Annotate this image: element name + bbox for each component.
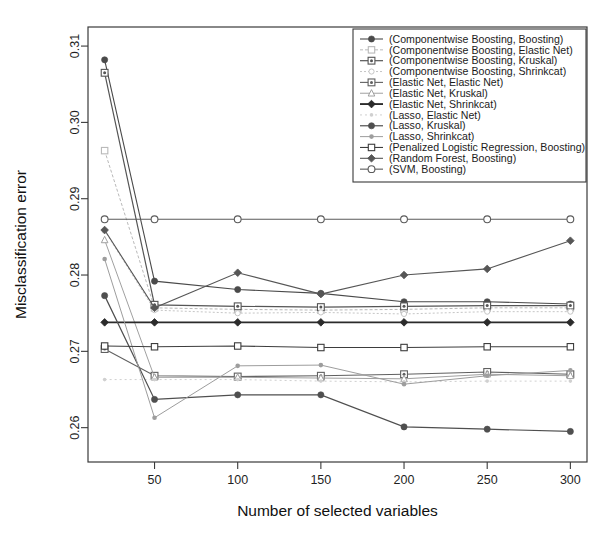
legend-item-label: (SVM, Boosting) bbox=[389, 163, 466, 175]
data-point-marker bbox=[101, 226, 109, 234]
data-point-marker bbox=[484, 344, 490, 350]
data-point-marker bbox=[567, 216, 574, 223]
data-point-marker bbox=[103, 71, 106, 74]
data-point-marker bbox=[567, 237, 575, 245]
data-point-marker bbox=[401, 311, 406, 316]
data-point-marker bbox=[485, 373, 490, 378]
y-tick-label: 0.31 bbox=[68, 34, 82, 58]
data-point-marker bbox=[236, 305, 239, 308]
x-tick-label: 150 bbox=[310, 473, 331, 487]
data-point-marker bbox=[102, 293, 108, 299]
data-point-marker bbox=[486, 304, 489, 307]
data-point-marker bbox=[319, 306, 322, 309]
data-point-marker bbox=[102, 57, 108, 63]
data-point-marker bbox=[369, 69, 374, 74]
x-tick-label: 50 bbox=[148, 473, 162, 487]
data-point-marker bbox=[400, 319, 408, 327]
data-point-marker bbox=[102, 257, 107, 262]
data-point-marker bbox=[103, 378, 107, 382]
data-point-marker bbox=[483, 265, 491, 273]
data-point-marker bbox=[484, 426, 490, 432]
data-point-marker bbox=[234, 216, 241, 223]
data-point-marker bbox=[234, 269, 242, 277]
series-10 bbox=[101, 343, 573, 351]
series-polyline bbox=[105, 346, 571, 348]
y-tick-label: 0.26 bbox=[68, 415, 82, 439]
data-point-marker bbox=[568, 368, 573, 373]
data-point-marker bbox=[235, 392, 241, 398]
data-point-marker bbox=[234, 319, 242, 327]
data-point-marker bbox=[235, 286, 241, 292]
data-point-marker bbox=[569, 379, 573, 383]
series-polyline bbox=[105, 240, 571, 379]
data-point-marker bbox=[101, 319, 109, 327]
data-point-marker bbox=[401, 216, 408, 223]
y-tick-label: 0.27 bbox=[68, 339, 82, 363]
y-tick-label: 0.30 bbox=[68, 110, 82, 134]
data-point-marker bbox=[483, 319, 491, 327]
data-point-marker bbox=[319, 379, 323, 383]
series-9 bbox=[102, 257, 572, 420]
data-point-marker bbox=[151, 396, 157, 402]
legend-layer: (Componentwise Boosting, Boosting)(Compo… bbox=[353, 29, 586, 182]
data-point-marker bbox=[368, 47, 374, 53]
data-point-marker bbox=[318, 344, 324, 350]
data-point-marker bbox=[484, 216, 491, 223]
data-point-marker bbox=[368, 144, 374, 150]
data-point-marker bbox=[368, 36, 374, 42]
data-point-marker bbox=[317, 216, 324, 223]
data-point-marker bbox=[151, 278, 157, 284]
data-point-marker bbox=[370, 59, 373, 62]
data-point-marker bbox=[318, 392, 324, 398]
data-point-marker bbox=[153, 378, 157, 382]
data-point-marker bbox=[370, 113, 374, 117]
data-point-marker bbox=[567, 344, 573, 350]
x-axis-title: Number of selected variables bbox=[237, 502, 438, 519]
series-12 bbox=[101, 216, 574, 223]
misclassification-error-chart: 0.260.270.280.290.300.315010015020025030… bbox=[0, 0, 614, 539]
data-point-marker bbox=[567, 319, 575, 327]
data-point-marker bbox=[368, 123, 374, 129]
data-point-marker bbox=[317, 319, 325, 327]
data-point-marker bbox=[235, 364, 240, 369]
data-point-marker bbox=[402, 382, 407, 387]
y-tick-label: 0.29 bbox=[68, 187, 82, 211]
x-tick-label: 200 bbox=[394, 473, 415, 487]
series-polyline bbox=[105, 349, 571, 376]
series-8 bbox=[102, 293, 574, 435]
data-point-marker bbox=[569, 304, 572, 307]
data-point-marker bbox=[236, 378, 240, 382]
series-polyline bbox=[105, 230, 571, 308]
series-polyline bbox=[105, 380, 571, 382]
data-point-marker bbox=[101, 147, 107, 153]
data-point-marker bbox=[368, 166, 375, 173]
series-5 bbox=[101, 236, 573, 381]
data-point-marker bbox=[401, 344, 407, 350]
data-point-marker bbox=[567, 428, 573, 434]
chart-canvas: 0.260.270.280.290.300.315010015020025030… bbox=[0, 0, 614, 539]
data-point-marker bbox=[101, 343, 107, 349]
series-6 bbox=[101, 319, 574, 327]
data-point-marker bbox=[568, 309, 573, 314]
data-point-marker bbox=[151, 344, 157, 350]
data-point-marker bbox=[403, 305, 406, 308]
data-point-marker bbox=[101, 216, 108, 223]
data-point-marker bbox=[401, 424, 407, 430]
series-polyline bbox=[105, 296, 571, 432]
data-point-marker bbox=[101, 236, 108, 242]
data-point-marker bbox=[369, 134, 374, 139]
data-point-marker bbox=[235, 343, 241, 349]
x-tick-label: 250 bbox=[477, 473, 498, 487]
data-point-marker bbox=[370, 81, 373, 84]
data-point-marker bbox=[318, 310, 323, 315]
data-point-marker bbox=[235, 311, 240, 316]
data-point-marker bbox=[151, 319, 159, 327]
data-point-marker bbox=[400, 271, 408, 279]
series-polyline bbox=[105, 231, 571, 314]
series-11 bbox=[101, 226, 574, 311]
data-point-marker bbox=[151, 216, 158, 223]
series-3 bbox=[102, 228, 573, 316]
y-axis-title: Misclassification error bbox=[12, 170, 29, 319]
data-point-marker bbox=[485, 379, 489, 383]
y-tick-label: 0.28 bbox=[68, 263, 82, 287]
